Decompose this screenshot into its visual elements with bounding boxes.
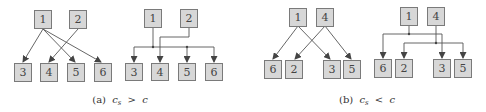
svg-text:1: 1 bbox=[40, 13, 47, 26]
edge-1-6 bbox=[273, 26, 298, 59]
svg-text:6: 6 bbox=[380, 62, 387, 75]
edge-4-5 bbox=[325, 26, 351, 59]
node-5: 5 bbox=[344, 61, 361, 79]
edge-1-5 bbox=[43, 29, 75, 62]
node-4: 4 bbox=[41, 64, 58, 82]
node-1: 1 bbox=[35, 11, 52, 29]
node-6: 6 bbox=[95, 64, 112, 82]
svg-text:1: 1 bbox=[295, 11, 302, 24]
svg-text:5: 5 bbox=[73, 66, 80, 79]
node-1: 1 bbox=[145, 10, 162, 28]
node-1: 1 bbox=[401, 8, 418, 26]
diagram-b-direct: 1 4 6 2 3 5 bbox=[265, 9, 361, 79]
svg-text:3: 3 bbox=[20, 66, 27, 79]
svg-text:4: 4 bbox=[322, 11, 329, 24]
edge-2-4 bbox=[49, 29, 78, 62]
node-4: 4 bbox=[428, 8, 445, 26]
node-4: 4 bbox=[152, 64, 169, 81]
node-6: 6 bbox=[206, 64, 223, 81]
node-5: 5 bbox=[455, 60, 472, 78]
svg-text:4: 4 bbox=[46, 66, 53, 79]
node-2: 2 bbox=[181, 10, 198, 28]
node-5: 5 bbox=[179, 64, 196, 81]
svg-text:2: 2 bbox=[186, 12, 193, 25]
svg-text:2: 2 bbox=[75, 13, 82, 26]
node-3: 3 bbox=[126, 64, 143, 81]
node-6: 6 bbox=[375, 60, 392, 78]
node-3: 3 bbox=[324, 61, 341, 79]
node-4: 4 bbox=[317, 9, 334, 27]
node-3: 3 bbox=[15, 64, 32, 82]
caption-b: (b) cs < c bbox=[339, 94, 395, 107]
svg-text:4: 4 bbox=[157, 66, 164, 79]
diagram-b-bus: 1 4 6 2 3 5 bbox=[375, 8, 472, 78]
svg-text:5: 5 bbox=[184, 66, 191, 79]
svg-text:6: 6 bbox=[270, 63, 277, 76]
node-2: 2 bbox=[396, 60, 413, 78]
node-6: 6 bbox=[265, 61, 282, 79]
edge-1-6 bbox=[43, 29, 101, 62]
caption-a: (a) cs > c bbox=[92, 94, 148, 107]
diagram-a-direct: 1 2 3 4 5 6 bbox=[15, 11, 112, 82]
svg-text:3: 3 bbox=[131, 66, 138, 79]
svg-text:3: 3 bbox=[439, 62, 446, 75]
svg-text:1: 1 bbox=[406, 10, 413, 23]
node-2: 2 bbox=[286, 61, 303, 79]
svg-text:2: 2 bbox=[291, 63, 298, 76]
node-3: 3 bbox=[434, 60, 451, 78]
svg-text:2: 2 bbox=[401, 62, 408, 75]
svg-text:5: 5 bbox=[349, 63, 356, 76]
diagram-a-bus: 1 2 3 4 5 6 bbox=[126, 10, 223, 81]
svg-text:3: 3 bbox=[329, 63, 336, 76]
edge-2-4 bbox=[160, 28, 189, 62]
node-5: 5 bbox=[68, 64, 85, 82]
svg-text:1: 1 bbox=[150, 12, 157, 25]
edge-4-2 bbox=[295, 26, 325, 59]
figure-canvas: 1 2 3 4 5 6 1 2 3 4 5 6 (a) cs > c 1 4 bbox=[0, 0, 486, 112]
node-1: 1 bbox=[290, 9, 307, 27]
svg-text:5: 5 bbox=[460, 62, 467, 75]
edge-1-3 bbox=[298, 26, 330, 59]
svg-text:6: 6 bbox=[211, 66, 218, 79]
svg-text:6: 6 bbox=[100, 66, 107, 79]
node-2: 2 bbox=[70, 11, 87, 29]
edge-1-3 bbox=[23, 29, 43, 62]
svg-text:4: 4 bbox=[433, 10, 440, 23]
